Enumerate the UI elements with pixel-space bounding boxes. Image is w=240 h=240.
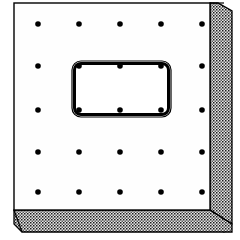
mounting-hole bbox=[76, 189, 82, 195]
mounting-hole bbox=[76, 149, 82, 155]
mounting-hole bbox=[35, 107, 41, 113]
panel-technical-drawing bbox=[0, 0, 240, 240]
mounting-hole-in-cutout bbox=[117, 63, 123, 69]
mounting-hole bbox=[117, 189, 123, 195]
drawing-canvas: Perforated Mounting Panel Isometric line… bbox=[0, 0, 240, 240]
mounting-hole bbox=[35, 63, 41, 69]
mounting-hole bbox=[158, 21, 164, 27]
mounting-hole-in-cutout bbox=[117, 107, 123, 113]
mounting-hole bbox=[35, 149, 41, 155]
mounting-hole bbox=[158, 149, 164, 155]
mounting-hole bbox=[199, 107, 205, 113]
mounting-hole bbox=[199, 21, 205, 27]
mounting-hole-in-cutout bbox=[158, 63, 164, 69]
mounting-hole bbox=[35, 21, 41, 27]
mounting-hole-in-cutout bbox=[76, 63, 82, 69]
mounting-hole bbox=[199, 189, 205, 195]
mounting-hole bbox=[117, 149, 123, 155]
panel-bottom-edge-face bbox=[14, 210, 232, 232]
mounting-hole bbox=[117, 21, 123, 27]
mounting-hole bbox=[158, 189, 164, 195]
mounting-hole bbox=[35, 189, 41, 195]
bottom-edge-face-shape bbox=[14, 210, 232, 232]
right-edge-face-shape bbox=[210, 3, 232, 232]
mounting-hole-in-cutout bbox=[158, 107, 164, 113]
mounting-hole-in-cutout bbox=[76, 107, 82, 113]
mounting-hole bbox=[199, 63, 205, 69]
mounting-hole bbox=[76, 21, 82, 27]
mounting-hole bbox=[199, 149, 205, 155]
panel-right-edge-face bbox=[210, 3, 232, 232]
